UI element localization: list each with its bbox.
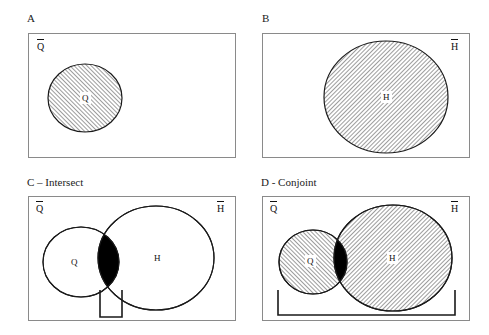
panel-c-intersection-bracket	[96, 288, 130, 322]
panel-c-title: C – Intersect	[27, 176, 83, 188]
panel-a-title: A	[27, 12, 35, 24]
panel-d-label-h: H	[387, 252, 398, 264]
panel-a-label-q: Q	[80, 92, 91, 104]
panel-d-label-q: Q	[305, 255, 316, 267]
panel-d-title: D - Conjoint	[261, 176, 317, 188]
panel-c-label-q: Q	[69, 256, 80, 268]
panel-a-circle-q	[28, 33, 236, 158]
panel-b-title: B	[262, 12, 269, 24]
panel-b-label-h: H	[381, 91, 392, 103]
panel-c-venn-diagram	[28, 196, 236, 321]
panel-d-union-bracket	[272, 288, 462, 320]
panel-b-circle-h	[262, 33, 470, 158]
panel-c-label-h: H	[152, 252, 163, 264]
